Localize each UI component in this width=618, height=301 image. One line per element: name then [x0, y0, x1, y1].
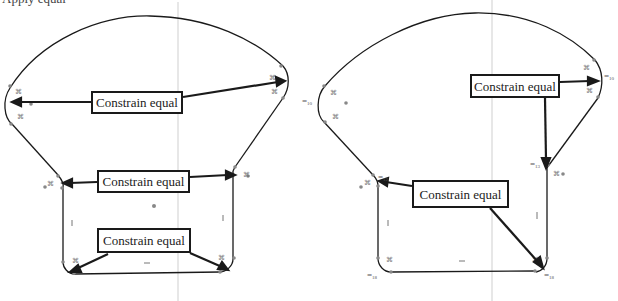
right-arrows	[379, 77, 598, 268]
equal-marker: =12	[378, 173, 388, 182]
svg-text:⌘: ⌘	[553, 170, 560, 178]
svg-text:⌘: ⌘	[364, 179, 371, 187]
svg-text:⌘: ⌘	[15, 88, 22, 96]
svg-text:⌘: ⌘	[332, 113, 339, 121]
callout-right-bottom: Constrain equal	[412, 180, 509, 208]
callout-right-top: Constrain equal	[470, 74, 560, 98]
equal-marker: =10	[604, 72, 614, 81]
sketch-canvas: ⌘⌘ ⌘⌘ ⌘⌘ ⌘⌘	[0, 0, 618, 301]
svg-text:⌘: ⌘	[271, 88, 278, 96]
svg-text:⌘: ⌘	[330, 89, 337, 97]
constraint-diagram: Apply equal	[0, 0, 618, 301]
right-sketch-profile	[318, 13, 602, 272]
svg-text:⌘: ⌘	[17, 113, 24, 121]
svg-text:⌘: ⌘	[583, 64, 590, 72]
svg-text:⌘: ⌘	[586, 87, 593, 95]
equal-marker: =10	[302, 97, 312, 106]
svg-text:⌘: ⌘	[269, 74, 276, 82]
equal-marker: =18	[367, 271, 377, 280]
svg-text:⌘: ⌘	[386, 256, 393, 264]
svg-text:⌘: ⌘	[47, 180, 54, 188]
callout-left-middle: Constrain equal	[97, 170, 190, 193]
svg-text:⌘: ⌘	[243, 171, 250, 179]
equal-marker: =13	[530, 160, 540, 169]
equal-marker: =18	[544, 271, 554, 280]
callout-left-top: Constrain equal	[91, 91, 183, 114]
callout-left-bottom: Constrain equal	[97, 228, 191, 253]
